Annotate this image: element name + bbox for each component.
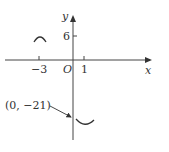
curve-local-min	[76, 119, 94, 124]
graph: y x O −3 1 6 (0, −21)	[0, 0, 169, 152]
point-label: (0, −21)	[5, 99, 51, 112]
x-axis-arrow-icon	[145, 57, 152, 63]
x-axis-label: x	[145, 64, 152, 77]
annotation-arrow	[50, 106, 71, 117]
origin-label: O	[63, 63, 72, 76]
tick-label-x-1: 1	[81, 63, 88, 76]
y-axis-label: y	[61, 10, 69, 23]
tick-label-y-6: 6	[63, 30, 70, 43]
y-axis-arrow-icon	[70, 15, 76, 22]
curve-local-max	[34, 37, 46, 42]
tick-label-x-neg3: −3	[31, 63, 47, 76]
